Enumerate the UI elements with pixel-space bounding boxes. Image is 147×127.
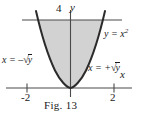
- x-axis-label: x: [120, 69, 125, 80]
- left-branch-prefix: x = –: [2, 54, 23, 65]
- x-tick-label-negative-2: -2: [21, 92, 30, 103]
- left-branch-equation-label: x = –√y: [2, 54, 32, 65]
- x-tick-label-positive-2: 2: [110, 92, 116, 103]
- left-branch-radicand: y: [28, 54, 32, 65]
- curve-equation-exponent: 2: [125, 27, 129, 35]
- y-axis-label: y: [70, 2, 75, 13]
- y-tick-label-4: 4: [56, 3, 62, 14]
- curve-equation-base: y = x: [104, 28, 125, 39]
- figure-container: y x 4 -2 2 y = x2 x = –√y x = +√y Fig. 1…: [0, 0, 147, 127]
- figure-caption: Fig. 13: [44, 99, 77, 111]
- right-branch-radicand: y: [115, 62, 119, 73]
- right-branch-equation-label: x = +√y: [88, 62, 120, 73]
- curve-equation-label: y = x2: [104, 28, 128, 39]
- right-branch-prefix: x = +: [88, 62, 111, 73]
